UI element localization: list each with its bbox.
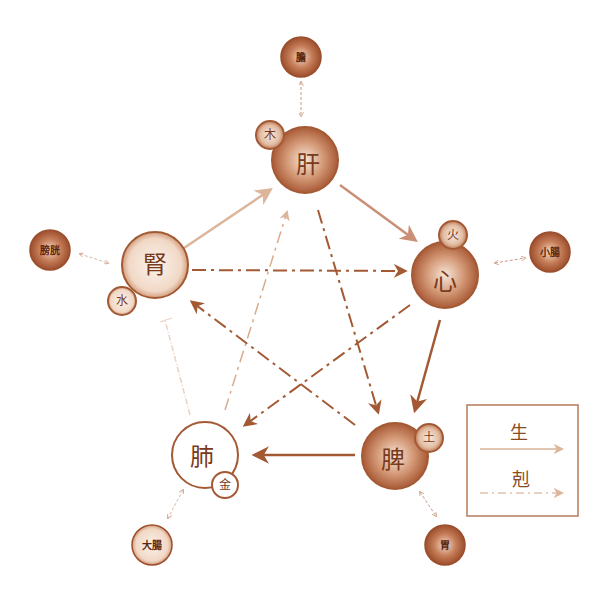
node-stomach: 胃 — [425, 525, 465, 565]
arrow-lung-to-liver — [225, 212, 287, 410]
element-metal-label: 金 — [219, 477, 231, 492]
node-gallbladder: 膽 — [281, 37, 321, 77]
element-water-label: 水 — [116, 294, 128, 308]
pair-arrow-spleen-stomach — [420, 492, 436, 516]
arrow-lung-to-kidney — [165, 320, 190, 415]
small-intestine-label: 小腸 — [539, 246, 560, 258]
legend-generate-label: 生 — [510, 422, 528, 443]
arrow-heart-to-lung — [245, 305, 410, 425]
pair-arrow-lung-large-intestine — [168, 490, 183, 518]
element-fire-label: 火 — [447, 228, 459, 242]
bladder-label: 膀胱 — [39, 244, 60, 256]
arrow-liver-to-heart — [340, 185, 415, 240]
arrow-spleen-to-kidney — [192, 302, 355, 425]
legend: 生 剋 — [467, 405, 578, 516]
liver-label: 肝 — [296, 151, 320, 179]
arrow-liver-to-spleen — [318, 210, 378, 412]
arrow-kidney-to-liver — [184, 190, 270, 248]
pair-arrow-kidney-bladder — [80, 254, 108, 263]
node-heart: 心 火 — [412, 221, 478, 308]
spleen-label: 脾 — [381, 446, 405, 474]
large-intestine-label: 大腸 — [142, 539, 162, 551]
lung-label: 肺 — [190, 443, 214, 471]
element-wood-label: 木 — [264, 128, 276, 142]
controlling-arrows — [192, 210, 410, 425]
gallbladder-label: 膽 — [296, 51, 306, 63]
legend-control-label: 剋 — [512, 469, 530, 490]
node-lung: 肺 金 — [172, 422, 238, 498]
node-liver: 肝 木 — [256, 121, 338, 193]
node-bladder: 膀胱 — [30, 230, 70, 270]
stomach-label: 胃 — [440, 540, 450, 551]
element-earth-label: 土 — [423, 431, 435, 445]
generating-arrows — [160, 185, 440, 455]
five-elements-diagram: 膽 小腸 胃 大腸 膀胱 肝 木 心 火 脾 土 肺 金 — [0, 0, 616, 601]
arrow-kidney-to-heart — [192, 270, 405, 271]
kidney-label: 腎 — [143, 251, 167, 279]
node-kidney: 腎 水 — [108, 232, 188, 315]
node-spleen: 脾 土 — [362, 423, 443, 489]
node-small-intestine: 小腸 — [530, 232, 570, 272]
pair-arrow-heart-small-intestine — [495, 258, 525, 263]
node-large-intestine: 大腸 — [132, 525, 172, 565]
arrow-heart-to-spleen — [415, 320, 440, 410]
heart-label: 心 — [433, 268, 457, 296]
